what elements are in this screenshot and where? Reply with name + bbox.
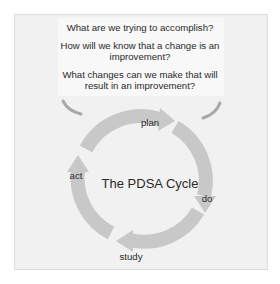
right-connector-arrow xyxy=(203,103,220,118)
act-label: act xyxy=(70,170,83,181)
study-arc xyxy=(130,211,198,242)
do-label: do xyxy=(202,193,213,204)
diagram-title: The PDSA Cycle xyxy=(102,176,199,191)
plan-arrowhead-icon xyxy=(158,108,175,131)
left-connector-arrow xyxy=(63,101,81,114)
study-arrowhead-icon xyxy=(116,230,133,252)
study-label: study xyxy=(120,251,143,262)
plan-label: plan xyxy=(141,117,159,128)
pdsa-cycle-diagram: plan do study act The PDSA Cycle xyxy=(0,0,280,284)
